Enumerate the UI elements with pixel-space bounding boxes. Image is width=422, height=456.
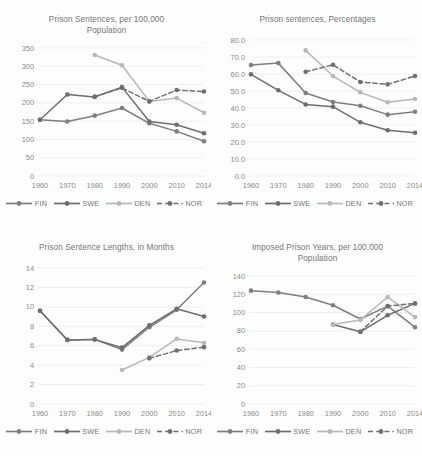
legend-marker-swe — [265, 199, 291, 208]
svg-text:1980: 1980 — [86, 181, 102, 190]
legend-item-nor[interactable]: NOR — [157, 427, 205, 436]
svg-text:300: 300 — [22, 62, 34, 71]
svg-text:2000: 2000 — [352, 181, 368, 190]
svg-text:2010: 2010 — [168, 409, 184, 418]
chart-legend: FIN SWE DEN NO — [211, 196, 422, 210]
svg-text:40.0: 40.0 — [231, 104, 245, 113]
legend-label-swe: SWE — [293, 199, 310, 208]
legend-label-den: DEN — [345, 427, 361, 436]
chart-panel-prison-sentence-lengths-months: Prison Sentence Lengths, in Months 02468… — [0, 228, 211, 456]
legend-item-nor[interactable]: NOR — [368, 427, 416, 436]
svg-text:2014: 2014 — [407, 409, 422, 418]
legend-marker-nor — [368, 427, 394, 436]
plot-area: 024681012141960197019801990200020102014 — [0, 228, 211, 428]
legend-marker-den — [106, 427, 132, 436]
legend-item-den[interactable]: DEN — [317, 427, 364, 436]
svg-text:1990: 1990 — [114, 181, 130, 190]
line-chart-svg: 0.010.020.030.040.050.060.070.080.019601… — [211, 0, 422, 200]
legend-item-swe[interactable]: SWE — [265, 427, 313, 436]
legend-item-swe[interactable]: SWE — [54, 199, 102, 208]
svg-text:200: 200 — [22, 98, 34, 107]
svg-text:40: 40 — [237, 363, 245, 372]
svg-text:2000: 2000 — [141, 181, 157, 190]
legend-label-fin: FIN — [35, 199, 47, 208]
legend-marker-den — [106, 199, 132, 208]
legend-marker-swe — [265, 427, 291, 436]
svg-text:50: 50 — [26, 153, 34, 162]
svg-text:30.0: 30.0 — [231, 121, 245, 130]
svg-text:2014: 2014 — [196, 409, 211, 418]
legend-item-swe[interactable]: SWE — [54, 427, 102, 436]
svg-text:100: 100 — [22, 135, 34, 144]
legend-marker-den — [317, 199, 343, 208]
legend-label-nor: NOR — [396, 427, 413, 436]
line-chart-svg: 0501001502002503003501960197019801990200… — [0, 0, 211, 200]
legend-item-den[interactable]: DEN — [317, 199, 364, 208]
legend-item-nor[interactable]: NOR — [157, 199, 205, 208]
svg-text:12: 12 — [26, 283, 34, 292]
svg-text:1980: 1980 — [297, 409, 313, 418]
svg-text:2010: 2010 — [168, 181, 184, 190]
svg-text:50.0: 50.0 — [231, 87, 245, 96]
svg-text:6: 6 — [30, 341, 34, 350]
svg-text:1960: 1960 — [243, 181, 259, 190]
svg-text:2000: 2000 — [352, 409, 368, 418]
svg-text:14: 14 — [26, 264, 34, 273]
svg-text:80.0: 80.0 — [231, 36, 245, 45]
plot-area: 0501001502002503003501960197019801990200… — [0, 0, 211, 200]
svg-text:60.0: 60.0 — [231, 70, 245, 79]
svg-text:1970: 1970 — [59, 409, 75, 418]
legend-item-fin[interactable]: FIN — [6, 199, 49, 208]
svg-text:0: 0 — [241, 400, 245, 409]
legend-item-den[interactable]: DEN — [106, 199, 153, 208]
svg-text:1990: 1990 — [325, 409, 341, 418]
legend-label-nor: NOR — [396, 199, 413, 208]
legend-label-fin: FIN — [35, 427, 47, 436]
legend-marker-swe — [54, 199, 80, 208]
chart-legend: FIN SWE DEN NO — [0, 196, 211, 210]
svg-text:4: 4 — [30, 361, 34, 370]
svg-text:2010: 2010 — [379, 181, 395, 190]
figure-canvas: Prison Sentences, per 100,000 Population… — [0, 0, 422, 456]
legend-item-fin[interactable]: FIN — [217, 427, 260, 436]
plot-area: 0.010.020.030.040.050.060.070.080.019601… — [211, 0, 422, 200]
legend-item-fin[interactable]: FIN — [6, 427, 49, 436]
line-chart-svg: 024681012141960197019801990200020102014 — [0, 228, 211, 428]
legend-marker-swe — [54, 427, 80, 436]
chart-panel-prison-sentences-percentages: Prison sentences, Percentages 0.010.020.… — [211, 0, 422, 228]
legend-item-den[interactable]: DEN — [106, 427, 153, 436]
legend-item-swe[interactable]: SWE — [265, 199, 313, 208]
legend-label-swe: SWE — [293, 427, 310, 436]
plot-area: 0204060801001201401960197019801990200020… — [211, 228, 422, 428]
legend-marker-fin — [6, 427, 32, 436]
chart-legend: FIN SWE DEN NO — [0, 424, 211, 438]
legend-label-nor: NOR — [185, 427, 202, 436]
svg-text:250: 250 — [22, 80, 34, 89]
svg-text:10.0: 10.0 — [231, 155, 245, 164]
chart-panel-prison-sentences-per-100000: Prison Sentences, per 100,000 Population… — [0, 0, 211, 228]
chart-legend: FIN SWE DEN NO — [211, 424, 422, 438]
chart-panel-imposed-prison-years-per-100000: Imposed Prison Years, per 100,000 Popula… — [211, 228, 422, 456]
svg-text:100: 100 — [233, 308, 245, 317]
svg-text:8: 8 — [30, 322, 34, 331]
legend-label-swe: SWE — [82, 199, 99, 208]
legend-label-fin: FIN — [246, 427, 258, 436]
svg-text:2010: 2010 — [379, 409, 395, 418]
legend-item-fin[interactable]: FIN — [217, 199, 260, 208]
legend-marker-nor — [157, 427, 183, 436]
svg-text:1980: 1980 — [297, 181, 313, 190]
legend-marker-nor — [157, 199, 183, 208]
svg-text:1960: 1960 — [243, 409, 259, 418]
svg-text:1970: 1970 — [270, 181, 286, 190]
svg-text:60: 60 — [237, 345, 245, 354]
legend-marker-nor — [368, 199, 394, 208]
svg-text:0: 0 — [30, 400, 34, 409]
svg-text:350: 350 — [22, 44, 34, 53]
svg-text:1960: 1960 — [32, 181, 48, 190]
svg-text:120: 120 — [233, 290, 245, 299]
legend-label-den: DEN — [134, 199, 150, 208]
legend-item-nor[interactable]: NOR — [368, 199, 416, 208]
legend-label-fin: FIN — [246, 199, 258, 208]
svg-text:80: 80 — [237, 326, 245, 335]
svg-text:1990: 1990 — [114, 409, 130, 418]
